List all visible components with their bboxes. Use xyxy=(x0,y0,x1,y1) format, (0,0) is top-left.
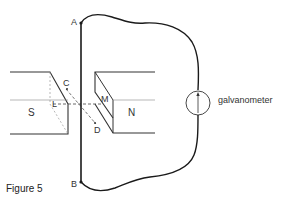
galvanometer xyxy=(186,91,210,115)
label-b: B xyxy=(71,180,77,189)
south-magnet xyxy=(10,72,68,134)
galvanometer-label: galvanometer xyxy=(218,96,273,105)
label-n: N xyxy=(128,108,135,118)
label-m: M xyxy=(101,95,109,104)
label-c: C xyxy=(63,79,70,88)
circuit-wire-top xyxy=(81,15,198,90)
label-d: D xyxy=(94,126,101,135)
label-s: S xyxy=(28,108,35,118)
label-l: L xyxy=(52,100,57,109)
figure-caption: Figure 5 xyxy=(6,184,43,194)
label-a: A xyxy=(71,18,77,27)
